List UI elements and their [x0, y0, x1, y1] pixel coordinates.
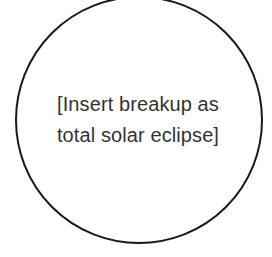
placeholder-line-2: total solar eclipse]: [0, 120, 272, 151]
placeholder-text: [Insert breakup as total solar eclipse]: [0, 89, 272, 151]
diagram-canvas: [Insert breakup as total solar eclipse]: [0, 0, 272, 257]
placeholder-line-1: [Insert breakup as: [0, 89, 272, 120]
